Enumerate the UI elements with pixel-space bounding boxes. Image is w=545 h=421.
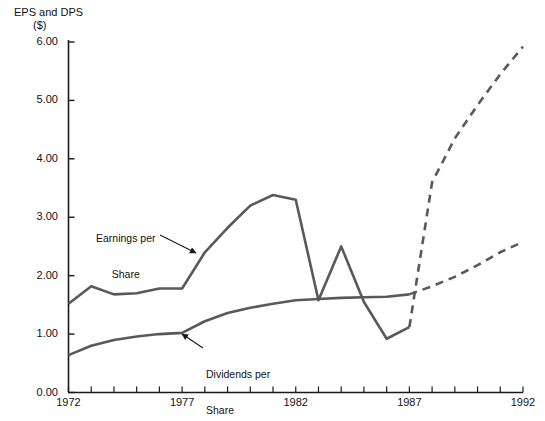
annotation-dividends-line2: Share [206,404,270,416]
eps-dps-line-chart: EPS and DPS ($) 0.001.002.003.004.005.00… [0,0,545,421]
plot-area [0,0,545,421]
annotation-arrows [160,235,203,348]
series-line-eps-forecast [409,47,523,327]
x-axis-ticks [69,387,524,393]
annotation-earnings-line2: Share [96,268,156,280]
annotation-arrow [182,334,203,348]
y-axis-ticks [69,42,75,393]
data-series-lines [69,47,524,355]
annotation-earnings-per-share: Earnings per Share [96,208,156,304]
series-line-dps-forecast [409,242,523,295]
annotation-dividends-line1: Dividends per [206,368,270,380]
annotation-arrow [160,235,196,253]
annotation-dividends-per-share: Dividends per Share [206,344,270,421]
annotation-earnings-line1: Earnings per [96,232,156,244]
